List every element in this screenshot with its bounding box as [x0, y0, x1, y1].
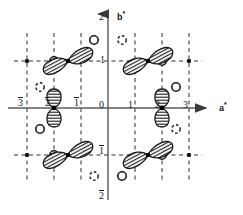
reciprocal-lattice-diagram — [0, 0, 243, 215]
figure-canvas: 3 2 1 1 2 3 0 2 1 1 2 b* a* — [0, 0, 243, 215]
axis-label-a-star: a* — [219, 101, 227, 113]
x-tick-label-neg2: 2 — [45, 97, 50, 108]
y-tick-label-pos1: 1 — [100, 55, 105, 65]
x-tick-label-pos1: 1 — [128, 100, 133, 110]
x-tick-label-neg3: 3 — [18, 97, 23, 108]
x-tick-label-neg1: 1 — [74, 97, 79, 108]
y-tick-label-neg2: 2 — [99, 190, 104, 201]
y-tick-label-neg1: 1 — [99, 145, 104, 156]
y-tick-label-pos2: 2 — [99, 12, 104, 22]
axis-label-b-star: b* — [117, 10, 125, 22]
x-tick-label-pos2: 2 — [155, 100, 160, 110]
x-tick-label-pos3: 3 — [183, 100, 188, 110]
origin-label: 0 — [99, 100, 104, 110]
